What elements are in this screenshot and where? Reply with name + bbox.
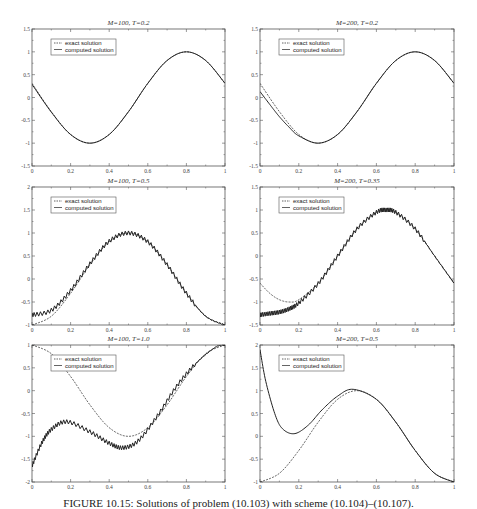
x-tick-label: 0	[31, 484, 34, 490]
computed-solution-line	[260, 208, 454, 317]
y-tick-label: -1	[25, 433, 30, 439]
plot-title: M=200, T=0.5	[335, 335, 378, 343]
legend-label: exact solution	[65, 40, 102, 46]
x-tick-label: 0.8	[412, 484, 419, 490]
y-tick-label: 0.5	[23, 72, 30, 78]
y-tick-label: 0	[255, 253, 258, 259]
legend-label: computed solution	[293, 363, 342, 369]
y-tick-label: -1.5	[21, 456, 30, 462]
chart-svg: M=200, T=0.3500.20.40.60.81-1.5-1-0.500.…	[238, 165, 477, 335]
plot-title: M=100, T=0.2	[107, 19, 150, 27]
y-tick-label: 1	[27, 49, 30, 55]
y-tick-label: 0.5	[23, 253, 30, 259]
plot-panel-3: M=100, T=0.500.20.40.60.81-1-0.500.511.5…	[0, 165, 238, 335]
y-tick-label: 1	[27, 342, 30, 348]
y-tick-label: -2	[25, 479, 30, 485]
legend-label: computed solution	[65, 363, 114, 369]
y-tick-label: 0	[255, 95, 258, 101]
legend: exact solutioncomputed solution	[279, 39, 344, 55]
legend-label: exact solution	[293, 356, 330, 362]
y-tick-label: 1.5	[251, 365, 258, 371]
legend-label: exact solution	[65, 356, 102, 362]
y-tick-label: -0.5	[21, 117, 30, 123]
exact-solution-line	[260, 52, 454, 143]
figure-caption: FIGURE 10.15: Solutions of problem (10.1…	[0, 497, 477, 509]
plot-title: M=200, T=0.2	[335, 19, 378, 27]
y-tick-label: 1.5	[23, 207, 30, 213]
y-tick-label: 1.5	[23, 26, 30, 32]
plot-title: M=200, T=0.35	[333, 177, 380, 185]
plot-panel-2: M=200, T=0.200.20.40.60.81-1.5-1-0.500.5…	[238, 0, 477, 175]
y-tick-label: 1.5	[251, 26, 258, 32]
plot-panel-1: M=100, T=0.200.20.40.60.81-1.5-1-0.500.5…	[0, 0, 238, 175]
legend-label: computed solution	[293, 205, 342, 211]
y-tick-label: -0.5	[249, 117, 258, 123]
legend: exact solutioncomputed solution	[51, 39, 116, 55]
chart-svg: M=100, T=0.200.20.40.60.81-1.5-1-0.500.5…	[0, 0, 238, 175]
plot-panel-4: M=200, T=0.3500.20.40.60.81-1.5-1-0.500.…	[238, 165, 477, 335]
y-tick-label: -0.5	[21, 299, 30, 305]
y-tick-label: 0.5	[251, 230, 258, 236]
y-tick-label: 1	[27, 230, 30, 236]
y-tick-label: -0.5	[249, 276, 258, 282]
chart-svg: M=200, T=0.200.20.40.60.81-1.5-1-0.500.5…	[238, 0, 477, 175]
x-tick-label: 0.2	[295, 484, 302, 490]
legend: exact solutioncomputed solution	[51, 355, 116, 371]
x-tick-label: 1	[224, 484, 227, 490]
y-tick-label: -0.5	[249, 456, 258, 462]
x-tick-label: 0.4	[334, 484, 341, 490]
exact-solution-line	[32, 52, 225, 143]
chart-svg: M=100, T=1.000.20.40.60.81-2-1.5-1-0.500…	[0, 323, 238, 493]
x-tick-label: 0.6	[144, 484, 151, 490]
plot-panel-5: M=100, T=1.000.20.40.60.81-2-1.5-1-0.500…	[0, 323, 238, 493]
y-tick-label: -1	[253, 479, 258, 485]
x-tick-label: 0.6	[373, 484, 380, 490]
y-tick-label: -1	[253, 140, 258, 146]
y-tick-label: 1	[255, 388, 258, 394]
legend-label: computed solution	[65, 47, 114, 53]
y-tick-label: 2	[255, 342, 258, 348]
y-tick-label: 0	[255, 433, 258, 439]
legend-label: exact solution	[293, 198, 330, 204]
plot-title: M=100, T=1.0	[107, 335, 150, 343]
chart-svg: M=200, T=0.500.20.40.60.81-1-0.500.511.5…	[238, 323, 477, 493]
y-tick-label: 0	[27, 95, 30, 101]
y-tick-label: -1	[253, 299, 258, 305]
y-tick-label: 0.5	[23, 365, 30, 371]
legend: exact solutioncomputed solution	[51, 197, 116, 213]
y-tick-label: -1	[25, 140, 30, 146]
exact-solution-line	[260, 210, 454, 302]
exact-solution-line	[32, 233, 225, 325]
y-tick-label: 0.5	[251, 411, 258, 417]
x-tick-label: 0.8	[183, 484, 190, 490]
y-tick-label: 0	[27, 276, 30, 282]
chart-svg: M=100, T=0.500.20.40.60.81-1-0.500.511.5…	[0, 165, 238, 335]
legend-label: exact solution	[65, 198, 102, 204]
computed-solution-line	[260, 52, 454, 143]
y-tick-label: 0.5	[251, 72, 258, 78]
x-tick-label: 0.2	[67, 484, 74, 490]
y-tick-label: -0.5	[21, 411, 30, 417]
x-tick-label: 0	[259, 484, 262, 490]
y-tick-label: 1	[255, 207, 258, 213]
y-tick-label: 0	[27, 388, 30, 394]
plot-panel-6: M=200, T=0.500.20.40.60.81-1-0.500.511.5…	[238, 323, 477, 493]
computed-solution-line	[32, 231, 225, 325]
legend-label: computed solution	[293, 47, 342, 53]
x-tick-label: 0.4	[106, 484, 113, 490]
legend: exact solutioncomputed solution	[279, 355, 344, 371]
y-tick-label: 1	[255, 49, 258, 55]
legend: exact solutioncomputed solution	[279, 197, 344, 213]
plot-title: M=100, T=0.5	[107, 177, 150, 185]
legend-label: computed solution	[65, 205, 114, 211]
legend-label: exact solution	[293, 40, 330, 46]
computed-solution-line	[32, 52, 225, 143]
y-tick-label: 1.5	[251, 184, 258, 190]
exact-solution-line	[260, 391, 454, 482]
x-tick-label: 1	[453, 484, 456, 490]
y-tick-label: 2	[27, 184, 30, 190]
